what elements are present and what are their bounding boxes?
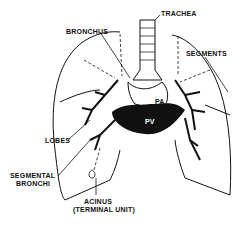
label-trachea: TRACHEA xyxy=(161,10,197,18)
trachea xyxy=(133,20,162,80)
label-pv: PV xyxy=(143,118,157,126)
lung-diagram xyxy=(0,0,242,226)
acinus-shape xyxy=(89,170,95,178)
label-segmental-bronchi-1: SEGMENTAL xyxy=(10,172,55,180)
label-acinus-2: (TERMINAL UNIT) xyxy=(73,206,133,214)
label-acinus-1: ACINUS xyxy=(83,198,113,206)
label-bronchus: BRONCHUS xyxy=(66,28,108,36)
label-segmental-bronchi-2: BRONCHI xyxy=(16,180,50,188)
label-segments: SEGMENTS xyxy=(186,50,227,58)
right-bronchial-tree xyxy=(175,80,205,160)
left-lung-outline xyxy=(53,32,120,200)
label-lobes: LOBES xyxy=(45,137,70,145)
label-pa: PA xyxy=(155,98,165,106)
